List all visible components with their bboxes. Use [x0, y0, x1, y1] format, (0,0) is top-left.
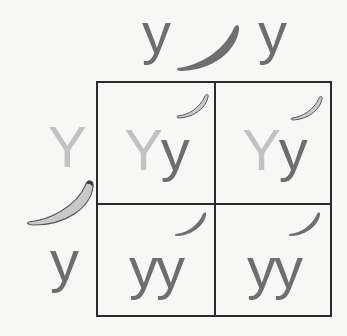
cell-bottom-right: yy	[216, 205, 332, 323]
left-allele-1: Y	[48, 118, 85, 176]
genotype: Yy	[98, 121, 214, 179]
cell-top-left: Yy	[98, 83, 214, 201]
genotype: yy	[98, 239, 214, 297]
genotype: Yy	[216, 121, 332, 179]
left-allele-2: y	[50, 232, 77, 290]
green-pod-icon	[288, 211, 322, 237]
yellow-pod-icon	[26, 178, 94, 228]
cell-top-right: Yy	[216, 83, 332, 201]
top-allele-2: y	[258, 4, 285, 62]
green-pod-icon	[174, 211, 208, 237]
top-allele-1: y	[142, 4, 169, 62]
genotype: yy	[216, 239, 332, 297]
yellow-pod-icon	[176, 93, 210, 119]
cell-bottom-left: yy	[98, 205, 214, 323]
green-pod-icon	[176, 22, 242, 72]
punnett-grid: Yy Yy yy yy	[96, 81, 332, 317]
